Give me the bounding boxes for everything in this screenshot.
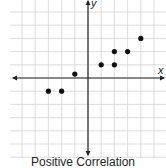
data-point	[72, 71, 77, 76]
chart-caption: Positive Correlation	[0, 155, 166, 168]
x-axis-label: x	[157, 64, 164, 76]
data-point	[112, 62, 117, 67]
data-point	[99, 62, 104, 67]
scatter-plot: x y	[0, 0, 166, 158]
data-point	[112, 49, 117, 54]
data-point	[138, 36, 143, 41]
data-point	[125, 49, 130, 54]
data-point	[46, 89, 51, 94]
y-axis-label: y	[90, 0, 98, 9]
data-point	[59, 89, 64, 94]
